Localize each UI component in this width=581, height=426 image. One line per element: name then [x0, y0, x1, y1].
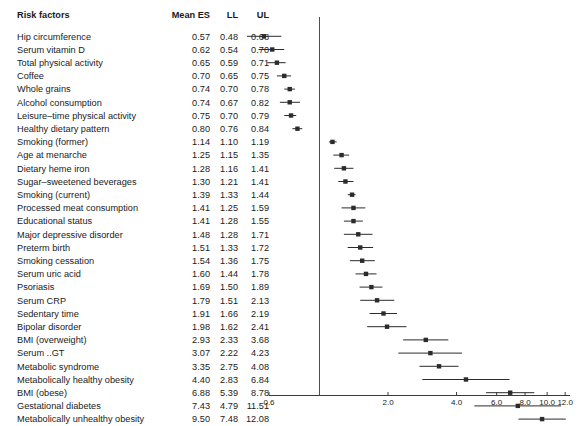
table-row: Processed meat consumption1.411.251.59 — [0, 203, 275, 216]
row-upper-limit: 1.75 — [240, 256, 269, 266]
row-mean-es: 1.30 — [148, 177, 210, 187]
row-label: Leisure–time physical activity — [17, 111, 136, 121]
row-mean-es: 0.70 — [148, 71, 210, 81]
table-row: Alcohol consumption0.740.670.82 — [0, 98, 275, 111]
row-upper-limit: 3.68 — [240, 335, 269, 345]
effect-size-marker — [424, 338, 428, 342]
table-row: BMI (overweight)2.932.333.68 — [0, 335, 275, 348]
row-upper-limit: 11.51 — [240, 401, 269, 411]
table-row: Metabolically healthy obesity4.402.836.8… — [0, 375, 275, 388]
row-mean-es: 0.74 — [148, 84, 210, 94]
row-lower-limit: 1.33 — [210, 243, 238, 253]
row-upper-limit: 1.19 — [240, 137, 269, 147]
row-lower-limit: 1.33 — [210, 190, 238, 200]
table-row: Smoking (former)1.141.101.19 — [0, 137, 275, 150]
row-mean-es: 7.43 — [148, 401, 210, 411]
row-lower-limit: 1.21 — [210, 177, 238, 187]
row-mean-es: 4.40 — [148, 375, 210, 385]
effect-size-marker — [540, 417, 544, 421]
effect-size-marker — [516, 404, 520, 408]
row-label: Educational status — [17, 216, 92, 226]
row-upper-limit: 4.08 — [240, 362, 269, 372]
row-lower-limit: 2.22 — [210, 348, 238, 358]
effect-size-marker — [343, 179, 347, 183]
row-lower-limit: 5.39 — [210, 388, 238, 398]
row-lower-limit: 1.10 — [210, 137, 238, 147]
row-label: Total physical activity — [17, 58, 103, 68]
effect-size-marker — [288, 87, 292, 91]
row-upper-limit: 0.70 — [240, 45, 269, 55]
row-label: Smoking (former) — [17, 137, 88, 147]
effect-size-marker — [289, 113, 293, 117]
row-lower-limit: 2.33 — [210, 335, 238, 345]
row-lower-limit: 0.76 — [210, 124, 238, 134]
table-row: Metabolic syndrome3.352.754.08 — [0, 362, 275, 375]
row-mean-es: 0.74 — [148, 98, 210, 108]
row-mean-es: 1.25 — [148, 150, 210, 160]
row-mean-es: 9.50 — [148, 414, 210, 424]
row-upper-limit: 1.71 — [240, 230, 269, 240]
table-row: Psoriasis1.691.501.89 — [0, 282, 275, 295]
row-upper-limit: 2.19 — [240, 309, 269, 319]
row-upper-limit: 12.08 — [240, 414, 269, 424]
row-upper-limit: 2.41 — [240, 322, 269, 332]
row-upper-limit: 0.84 — [240, 124, 269, 134]
row-mean-es: 3.07 — [148, 348, 210, 358]
effect-size-marker — [437, 364, 441, 368]
table-row: Serum uric acid1.601.441.78 — [0, 269, 275, 282]
row-lower-limit: 0.67 — [210, 98, 238, 108]
row-mean-es: 1.28 — [148, 164, 210, 174]
row-label: Age at menarche — [17, 150, 87, 160]
row-lower-limit: 1.25 — [210, 203, 238, 213]
row-label: Metabolically healthy obesity — [17, 375, 134, 385]
row-label: Sedentary time — [17, 309, 79, 319]
table-row: BMI (obese)6.885.398.78 — [0, 388, 275, 401]
x-axis-tick-label: 2.0 — [382, 398, 393, 407]
row-label: Processed meat consumption — [17, 203, 138, 213]
effect-size-marker — [339, 153, 343, 157]
x-axis-tick-label: 8.0 — [520, 398, 531, 407]
table-row: Serum CRP1.791.512.13 — [0, 296, 275, 309]
table-row: Total physical activity0.650.590.71 — [0, 58, 275, 71]
row-lower-limit: 0.70 — [210, 111, 238, 121]
effect-size-marker — [381, 311, 385, 315]
row-mean-es: 1.79 — [148, 296, 210, 306]
row-upper-limit: 1.41 — [240, 164, 269, 174]
row-mean-es: 1.69 — [148, 282, 210, 292]
table-row: Smoking (current)1.391.331.44 — [0, 190, 275, 203]
table-row: Preterm birth1.511.331.72 — [0, 243, 275, 256]
row-upper-limit: 0.79 — [240, 111, 269, 121]
row-mean-es: 0.62 — [148, 45, 210, 55]
table-row: Whole grains0.740.700.78 — [0, 84, 275, 97]
row-label: Metabolically unhealthy obesity — [17, 414, 144, 424]
effect-size-marker — [508, 391, 512, 395]
row-mean-es: 1.14 — [148, 137, 210, 147]
row-upper-limit: 1.55 — [240, 216, 269, 226]
effect-size-marker — [330, 140, 334, 144]
table-row: Sedentary time1.911.662.19 — [0, 309, 275, 322]
table-row: Leisure–time physical activity0.750.700.… — [0, 111, 275, 124]
row-lower-limit: 0.59 — [210, 58, 238, 68]
row-lower-limit: 7.48 — [210, 414, 238, 424]
row-upper-limit: 0.68 — [240, 32, 269, 42]
row-lower-limit: 4.79 — [210, 401, 238, 411]
row-lower-limit: 1.36 — [210, 256, 238, 266]
row-upper-limit: 1.35 — [240, 150, 269, 160]
table-row: Sugar–sweetened beverages1.301.211.41 — [0, 177, 275, 190]
effect-size-marker — [364, 272, 368, 276]
row-lower-limit: 1.50 — [210, 282, 238, 292]
row-lower-limit: 0.48 — [210, 32, 238, 42]
table-row: Coffee0.700.650.75 — [0, 71, 275, 84]
row-label: Serum CRP — [17, 296, 66, 306]
row-mean-es: 2.93 — [148, 335, 210, 345]
row-upper-limit: 2.13 — [240, 296, 269, 306]
row-label: Serum uric acid — [17, 269, 81, 279]
row-mean-es: 1.51 — [148, 243, 210, 253]
row-label: Serum vitamin D — [17, 45, 85, 55]
table-row: Educational status1.411.281.55 — [0, 216, 275, 229]
effect-size-marker — [288, 100, 292, 104]
table-row: Gestational diabetes7.434.7911.51 — [0, 401, 275, 414]
row-label: Gestational diabetes — [17, 401, 101, 411]
row-upper-limit: 1.89 — [240, 282, 269, 292]
effect-size-marker — [358, 245, 362, 249]
